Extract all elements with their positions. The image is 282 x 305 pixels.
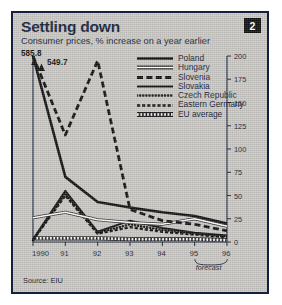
legend-swatch-poland [137, 54, 173, 63]
x-axis-tick-label: 1990 [32, 249, 49, 258]
chart-panel: Settling down Consumer prices, % increas… [11, 11, 269, 294]
y-axis-tick-label: 50 [234, 192, 242, 201]
legend-swatch-slovenia [137, 73, 173, 82]
legend-swatch-hungary [137, 63, 173, 72]
chart-subtitle: Consumer prices, % increase on a year ea… [21, 36, 210, 46]
x-axis-tick-label: 96 [222, 249, 230, 258]
legend-label: EU average [178, 110, 222, 119]
slovenia-offscale-value: 549.7 [47, 58, 68, 67]
x-axis-tick-label: 93 [125, 249, 133, 258]
legend-swatch-czech-republic [137, 91, 173, 100]
status-badge: 2 [244, 18, 261, 33]
x-axis-tick-label: 92 [93, 249, 101, 258]
x-axis-tick-label: 91 [60, 249, 68, 258]
legend-swatch-eu-average [137, 110, 173, 119]
y-axis-tick-label: 125 [234, 122, 246, 131]
y-axis-tick-label: 100 [234, 145, 246, 154]
x-axis-tick-label: 95 [190, 249, 198, 258]
x-axis-tick-label: 94 [157, 249, 165, 258]
y-axis-tick-label: 0 [234, 238, 238, 247]
y-axis-tick-label: 25 [234, 215, 242, 224]
forecast-brace [191, 258, 231, 269]
y-axis-tick-label: 75 [234, 168, 242, 177]
page-title: Settling down [21, 18, 120, 36]
legend-swatch-slovakia [137, 82, 173, 91]
chart-legend: PolandHungarySloveniaSlovakiaCzech Repub… [137, 54, 244, 119]
poland-offscale-value: 585.8 [21, 49, 42, 58]
legend-item: EU average [137, 110, 244, 119]
y-axis-tick-label: 150 [234, 99, 246, 108]
y-axis-tick-label: 175 [234, 75, 246, 84]
source-note: Source: EIU [23, 276, 63, 285]
legend-swatch-eastern-germany [137, 101, 173, 110]
y-axis-tick-label: 200 [234, 52, 246, 61]
